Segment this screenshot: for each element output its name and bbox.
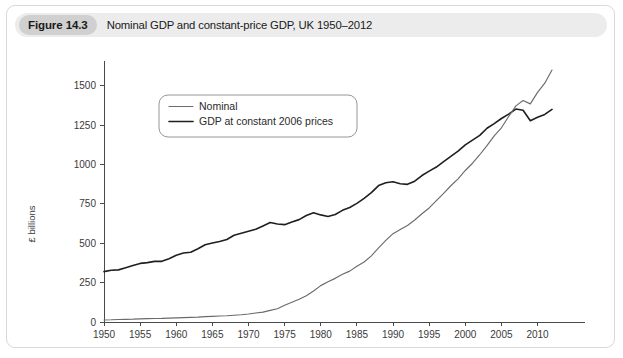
x-tick-label: 2005: [490, 329, 513, 340]
figure-title: Nominal GDP and constant-price GDP, UK 1…: [107, 19, 373, 31]
figure-card: Figure 14.3 Nominal GDP and constant-pri…: [6, 5, 615, 348]
x-tick-label: 1995: [418, 329, 441, 340]
x-tick-label: 1970: [237, 329, 260, 340]
x-axis: 1950195519601965197019751980198519901995…: [93, 322, 585, 340]
x-tick-label: 1965: [201, 329, 224, 340]
line-chart: 0250500750100012501500 19501955196019651…: [7, 39, 614, 347]
x-tick-label: 1975: [274, 329, 297, 340]
x-tick-label: 2000: [454, 329, 477, 340]
y-tick-label: 0: [90, 317, 96, 328]
legend-item-nominal-label: Nominal: [199, 100, 238, 112]
x-tick-label: 1955: [129, 329, 152, 340]
y-tick-label: 500: [79, 238, 96, 249]
chart-legend: NominalGDP at constant 2006 prices: [159, 95, 357, 137]
y-tick-label: 750: [79, 198, 96, 209]
y-tick-label: 1000: [74, 159, 97, 170]
x-tick-label: 1960: [165, 329, 188, 340]
x-tick-label: 1985: [346, 329, 369, 340]
figure-number-badge: Figure 14.3: [19, 15, 97, 35]
y-tick-label: 1500: [74, 80, 97, 91]
x-tick-label: 1990: [382, 329, 405, 340]
x-tick-label: 1980: [310, 329, 333, 340]
y-axis: 0250500750100012501500: [74, 61, 104, 328]
x-tick-label: 1950: [93, 329, 116, 340]
x-tick-label: 2010: [526, 329, 549, 340]
legend-item-constant-price-label: GDP at constant 2006 prices: [199, 115, 333, 127]
figure-header-bar: Figure 14.3 Nominal GDP and constant-pri…: [15, 13, 607, 37]
y-tick-label: 250: [79, 277, 96, 288]
y-axis-title: £ billions: [26, 205, 37, 242]
y-tick-label: 1250: [74, 120, 97, 131]
chart-plot-area: 0250500750100012501500 19501955196019651…: [7, 39, 614, 347]
